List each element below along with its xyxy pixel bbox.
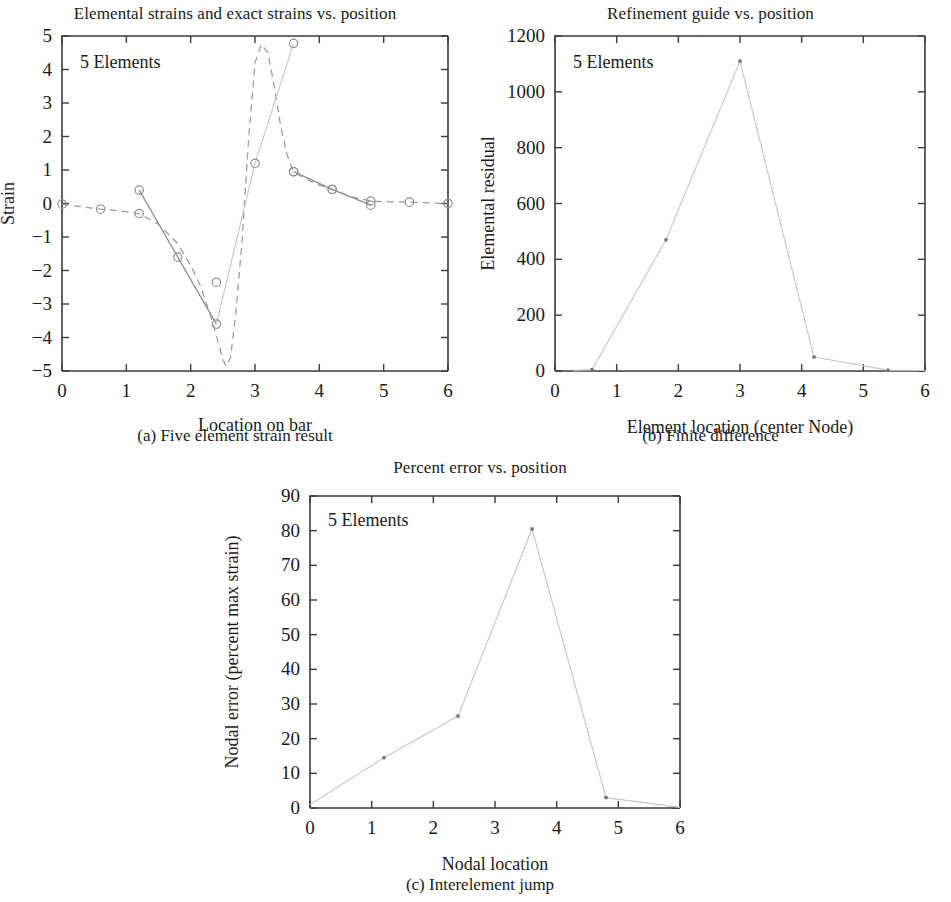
plot-annotation: 5 Elements xyxy=(573,52,653,72)
plot-frame-top-left xyxy=(310,496,680,808)
y-tick-label: 4 xyxy=(43,59,53,80)
plot-frame-top-left xyxy=(62,36,448,371)
series-path xyxy=(62,44,448,366)
data-marker xyxy=(530,527,533,530)
x-tick-label: 1 xyxy=(367,817,377,838)
x-tick-label: 4 xyxy=(797,380,807,401)
y-tick-label: 200 xyxy=(517,304,546,325)
panel-b-plot: 02004006008001000120001234565 ElementsEl… xyxy=(470,24,951,424)
plot-frame-top-left xyxy=(555,36,925,371)
y-tick-label: 80 xyxy=(281,520,300,541)
y-tick-label: 0 xyxy=(291,797,301,818)
x-tick-label: 2 xyxy=(186,380,196,401)
data-marker xyxy=(590,368,593,371)
data-marker xyxy=(812,355,815,358)
data-marker xyxy=(289,167,297,175)
plot-annotation: 5 Elements xyxy=(80,52,160,72)
y-tick-label: 1 xyxy=(43,159,53,180)
panel-a-svg: −5−4−3−2−101234501234565 ElementsLocatio… xyxy=(0,24,470,424)
y-tick-label: 50 xyxy=(281,624,300,645)
series-segment xyxy=(216,43,293,324)
data-marker xyxy=(738,60,741,63)
data-marker xyxy=(886,369,889,372)
x-tick-label: 5 xyxy=(614,817,624,838)
y-tick-label: −1 xyxy=(32,226,52,247)
data-marker xyxy=(664,238,667,241)
x-tick-label: 4 xyxy=(552,817,562,838)
y-tick-label: 800 xyxy=(517,137,546,158)
y-tick-label: 600 xyxy=(517,193,546,214)
y-tick-label: 5 xyxy=(43,25,53,46)
x-tick-label: 0 xyxy=(57,380,67,401)
panel-a-plot: −5−4−3−2−101234501234565 ElementsLocatio… xyxy=(0,24,470,424)
y-tick-label: 20 xyxy=(281,728,300,749)
data-marker xyxy=(604,796,607,799)
y-tick-label: 0 xyxy=(536,360,546,381)
panel-a-title: Elemental strains and exact strains vs. … xyxy=(0,0,470,24)
x-tick-label: 4 xyxy=(315,380,325,401)
y-tick-label: 70 xyxy=(281,554,300,575)
panel-c-interelement-jump: Percent error vs. position 0102030405060… xyxy=(180,452,780,902)
y-tick-label: 0 xyxy=(43,193,53,214)
y-tick-label: 1200 xyxy=(507,25,545,46)
x-tick-label: 6 xyxy=(443,380,453,401)
x-tick-label: 6 xyxy=(675,817,685,838)
x-tick-label: 1 xyxy=(612,380,622,401)
panel-c-svg: 010203040506070809001234565 ElementsNoda… xyxy=(180,478,780,873)
panel-a-five-element-strain: Elemental strains and exact strains vs. … xyxy=(0,0,470,452)
x-tick-label: 5 xyxy=(379,380,389,401)
series-segment xyxy=(294,172,371,206)
x-tick-label: 6 xyxy=(920,380,930,401)
panel-c-plot: 010203040506070809001234565 ElementsNoda… xyxy=(180,478,780,873)
panel-c-caption: (c) Interelement jump xyxy=(180,875,780,895)
x-axis-label: Element location (center Node) xyxy=(627,417,853,438)
x-tick-label: 5 xyxy=(859,380,869,401)
y-tick-label: 1000 xyxy=(507,81,545,102)
y-axis-label: Strain xyxy=(0,182,18,225)
x-axis-label: Nodal location xyxy=(442,854,548,874)
x-tick-label: 1 xyxy=(122,380,132,401)
y-tick-label: −4 xyxy=(32,327,53,348)
x-tick-label: 0 xyxy=(305,817,315,838)
series-segment xyxy=(139,190,216,324)
y-tick-label: 2 xyxy=(43,126,53,147)
y-tick-label: 30 xyxy=(281,693,300,714)
data-marker xyxy=(382,756,385,759)
y-tick-label: 400 xyxy=(517,248,546,269)
x-tick-label: 0 xyxy=(550,380,560,401)
x-tick-label: 3 xyxy=(735,380,745,401)
y-tick-label: 10 xyxy=(281,762,300,783)
panel-c-title: Percent error vs. position xyxy=(180,452,780,478)
series-path xyxy=(574,61,926,370)
panel-b-title: Refinement guide vs. position xyxy=(470,0,951,24)
y-tick-label: 3 xyxy=(43,92,53,113)
y-tick-label: −3 xyxy=(32,293,52,314)
data-marker xyxy=(212,278,220,286)
y-axis-label: Elemental residual xyxy=(478,136,498,270)
x-tick-label: 2 xyxy=(674,380,684,401)
y-tick-label: 60 xyxy=(281,589,300,610)
panel-b-svg: 02004006008001000120001234565 ElementsEl… xyxy=(470,24,951,424)
panel-b-finite-difference: Refinement guide vs. position 0200400600… xyxy=(470,0,951,452)
x-axis-label: Location on bar xyxy=(198,415,312,435)
x-tick-label: 3 xyxy=(490,817,500,838)
x-tick-label: 2 xyxy=(429,817,439,838)
y-tick-label: 90 xyxy=(281,485,300,506)
y-axis-label: Nodal error (percent max strain) xyxy=(222,536,243,769)
y-tick-label: −2 xyxy=(32,260,52,281)
plot-annotation: 5 Elements xyxy=(328,510,408,530)
data-marker xyxy=(456,715,459,718)
figure-three-panel-strain: Elemental strains and exact strains vs. … xyxy=(0,0,951,902)
series-path xyxy=(310,529,680,807)
y-tick-label: −5 xyxy=(32,360,52,381)
y-tick-label: 40 xyxy=(281,658,300,679)
x-tick-label: 3 xyxy=(250,380,260,401)
